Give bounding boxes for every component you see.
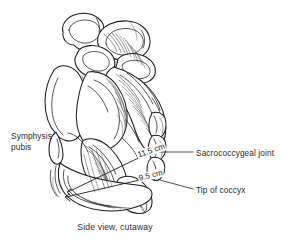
pelvis-side-view-illustration: .o { fill:#ffffff; stroke:#1b1b1b; strok… xyxy=(0,0,294,249)
label-tip-of-coccyx: Tip of coccyx xyxy=(196,185,245,196)
figure-caption: Side view, cutaway xyxy=(0,222,230,232)
anatomical-figure: .o { fill:#ffffff; stroke:#1b1b1b; strok… xyxy=(0,0,294,249)
label-symphysis-pubis: Symphysis pubis xyxy=(11,131,52,152)
leader-tip-of-coccyx xyxy=(160,180,193,189)
label-sacrococcygeal-joint: Sacrococcygeal joint xyxy=(196,148,274,159)
coccyx-segment-1 xyxy=(149,112,166,138)
